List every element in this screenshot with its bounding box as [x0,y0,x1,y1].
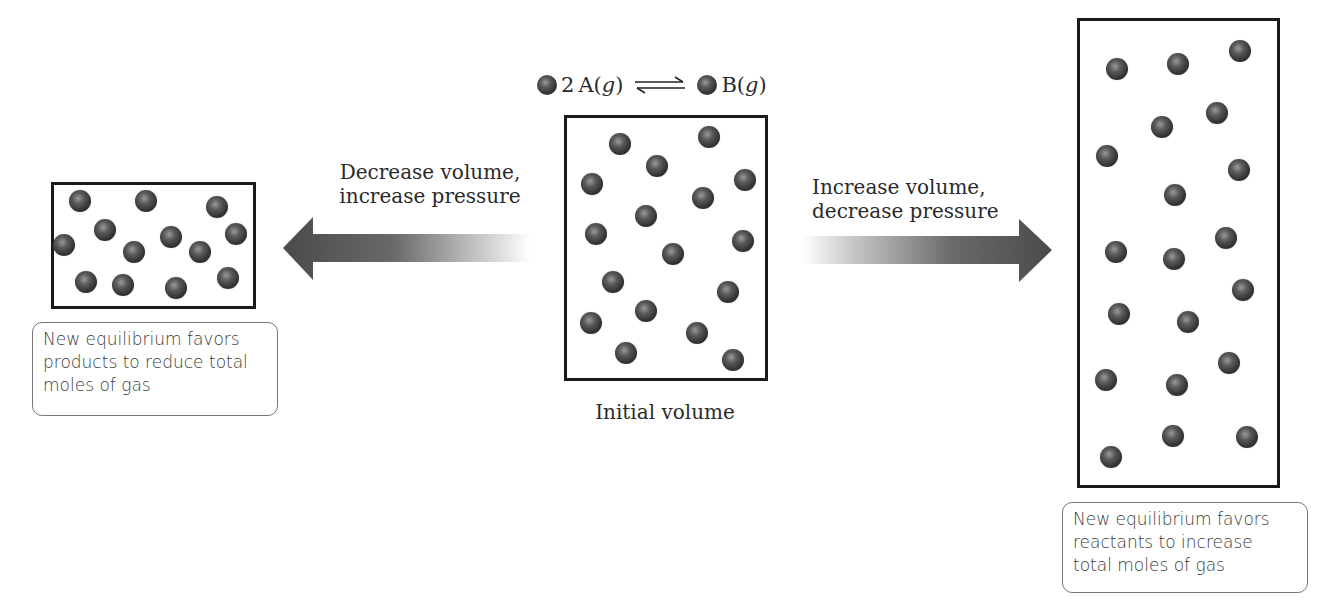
gas-particle-icon [135,190,157,212]
gas-particle-icon [1236,426,1258,448]
gas-particle-icon [1100,446,1122,468]
gas-particle-icon [112,274,134,296]
gas-particle-icon [662,243,684,265]
reaction-equation: 2 A(g) B(g) [537,73,767,97]
gas-particle-icon [717,281,739,303]
gas-particle-icon [206,196,228,218]
increase-volume-arrow-icon [800,216,1056,286]
gas-particle-icon [722,349,744,371]
gas-particle-icon [1105,241,1127,263]
gas-particle-icon [1151,116,1173,138]
gas-particle-icon [53,234,75,256]
gas-particle-icon [69,190,91,212]
reactant-coefficient: 2 [561,73,574,97]
left-arrow-label: Decrease volume, increase pressure [330,160,530,208]
gas-particle-icon [1106,58,1128,80]
gas-particle-icon [1228,159,1250,181]
gas-particle-icon [94,219,116,241]
gas-particle-icon [585,223,607,245]
gas-particle-icon [1162,425,1184,447]
gas-particle-icon [1215,227,1237,249]
gas-particle-icon [1163,248,1185,270]
gas-particle-icon [581,173,603,195]
gas-particle-icon [225,223,247,245]
left-caption-box: New equilibrium favors products to reduc… [32,322,278,416]
gas-particle-icon [609,133,631,155]
right-caption-box: New equilibrium favors reactants to incr… [1062,502,1308,593]
reactant-formula: A(g) [578,73,623,97]
gas-particle-icon [123,241,145,263]
gas-particle-icon [1206,102,1228,124]
gas-particle-icon [692,187,714,209]
gas-particle-icon [635,300,657,322]
gas-particle-icon [698,126,720,148]
gas-particle-icon [1095,369,1117,391]
gas-particle-icon [602,271,624,293]
gas-particle-icon [1096,145,1118,167]
decrease-volume-arrow-icon [280,214,540,284]
gas-particle-icon [75,271,97,293]
equilibrium-arrows-icon [633,75,687,95]
gas-particle-icon [160,226,182,248]
gas-particle-icon [1167,53,1189,75]
gas-particle-icon [1108,303,1130,325]
gas-particle-icon [217,267,239,289]
gas-particle-icon [734,169,756,191]
gas-particle-icon [635,205,657,227]
gas-particle-icon [580,312,602,334]
gas-particle-icon [1218,352,1240,374]
gas-particle-icon [189,241,211,263]
gas-particle-icon [165,277,187,299]
gas-particle-icon [646,155,668,177]
molecule-a-icon [537,75,557,95]
initial-volume-label: Initial volume [560,400,770,424]
gas-particle-icon [1232,279,1254,301]
gas-particle-icon [686,322,708,344]
gas-particle-icon [615,342,637,364]
gas-particle-icon [1164,184,1186,206]
product-formula: B(g) [721,73,766,97]
gas-particle-icon [1166,374,1188,396]
gas-particle-icon [1229,40,1251,62]
molecule-b-icon [697,75,717,95]
gas-particle-icon [732,230,754,252]
gas-particle-icon [1177,311,1199,333]
